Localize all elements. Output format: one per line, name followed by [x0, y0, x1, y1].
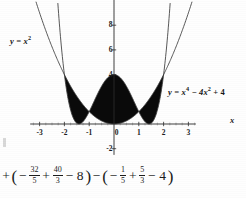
curve-label-quartic-part1: y = x	[168, 87, 186, 97]
scan-artifact	[3, 138, 6, 147]
fraction-numerator: 1	[120, 166, 126, 174]
fraction-numerator: 40	[53, 166, 63, 174]
x-tick-label: -1	[82, 128, 96, 137]
fraction-denominator: 5	[120, 177, 126, 185]
equation-paren: )	[85, 168, 91, 185]
x-tick-label: 3	[181, 128, 195, 137]
equation-token: − 4	[148, 168, 166, 184]
fraction-numerator: 32	[29, 166, 39, 174]
equation-token: −	[110, 168, 118, 184]
curve-label-quartic: y = x4 − 4x2 + 4	[168, 87, 225, 97]
equation-token: −	[93, 168, 101, 184]
y-tick-label: 8	[99, 20, 113, 29]
curve-label-parabola-text: y = x	[10, 36, 28, 46]
y-tick-label: 6	[99, 45, 113, 54]
equation-token: +	[2, 168, 10, 184]
x-tick-label: 1	[132, 128, 146, 137]
curve-label-parabola-exponent: 2	[28, 34, 31, 41]
fraction-denominator: 3	[139, 177, 145, 185]
fraction: 15	[120, 166, 126, 185]
equation-paren: (	[12, 168, 18, 185]
equation-token: +	[129, 168, 137, 184]
curve-label-parabola: y = x2	[10, 36, 31, 46]
equation-token: +	[42, 168, 50, 184]
x-tick-label: -3	[33, 128, 47, 137]
fraction: 53	[139, 166, 145, 185]
fraction: 325	[29, 166, 39, 185]
fraction-denominator: 5	[32, 177, 38, 185]
figure-root: y = x2 y = x4 − 4x2 + 4 -3-2-10123864-2 …	[0, 0, 246, 198]
x-axis-label: x	[230, 115, 234, 125]
equation-paren: (	[102, 168, 108, 185]
fraction-denominator: 3	[55, 177, 61, 185]
fraction-numerator: 5	[139, 166, 145, 174]
x-tick-label: 0	[110, 128, 124, 137]
y-tick-label: -2	[99, 144, 113, 153]
plot-area: y = x2 y = x4 − 4x2 + 4 -3-2-10123864-2 …	[0, 0, 246, 155]
equation-token: − 8	[66, 168, 84, 184]
fraction: 403	[53, 166, 63, 185]
curve-label-quartic-part2: − 4x	[189, 87, 208, 97]
equation-token: −	[19, 168, 27, 184]
curve-label-quartic-part3: + 4	[211, 87, 225, 97]
equation-paren: )	[168, 168, 174, 185]
x-tick-label: 2	[157, 128, 171, 137]
x-tick-label: -2	[57, 128, 71, 137]
y-tick-label: 4	[99, 70, 113, 79]
equation-line: +(−325+403− 8)−(−15+53− 4)	[0, 160, 246, 192]
